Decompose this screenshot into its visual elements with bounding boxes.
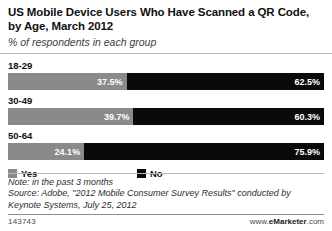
brand-suffix: .com xyxy=(307,217,324,226)
bar-segment-yes: 24.1% xyxy=(8,143,84,160)
bar-value-no: 62.5% xyxy=(294,77,320,87)
category-label: 30-49 xyxy=(8,95,324,106)
chart-source: Source: Adobe, "2012 Mobile Consumer Sur… xyxy=(8,188,324,211)
bar-segment-yes: 37.5% xyxy=(8,73,127,90)
bar-group-30-49: 30-49 39.7% 60.3% xyxy=(8,95,324,125)
bar-segment-no: 60.3% xyxy=(133,108,324,125)
brand-prefix: www. xyxy=(250,217,269,226)
bar-segment-no: 62.5% xyxy=(127,73,325,90)
stacked-bar: 37.5% 62.5% xyxy=(8,73,324,90)
emarketer-brand: www.eMarketer.com xyxy=(250,217,324,226)
category-label: 18-29 xyxy=(8,60,324,71)
bar-group-50-64: 50-64 24.1% 75.9% xyxy=(8,130,324,160)
bar-segment-no: 75.9% xyxy=(84,143,324,160)
chart-footer: Note: in the past 3 months Source: Adobe… xyxy=(0,173,332,231)
chart-id-bar: 143743 www.eMarketer.com xyxy=(8,217,324,226)
bar-value-no: 75.9% xyxy=(294,147,320,157)
chart-id: 143743 xyxy=(8,217,36,226)
emarketer-chart-card: US Mobile Device Users Who Have Scanned … xyxy=(0,0,332,230)
bar-value-yes: 39.7% xyxy=(104,112,130,122)
bar-group-18-29: 18-29 37.5% 62.5% xyxy=(8,60,324,90)
chart-subtitle: % of respondents in each group xyxy=(8,36,324,49)
bar-value-yes: 24.1% xyxy=(55,147,81,157)
stacked-bar: 24.1% 75.9% xyxy=(8,143,324,160)
category-label: 50-64 xyxy=(8,130,324,141)
bar-value-yes: 37.5% xyxy=(97,77,123,87)
chart-plot-area: 18-29 37.5% 62.5% 30-49 39.7% 60.3% xyxy=(0,60,332,160)
bar-segment-yes: 39.7% xyxy=(8,108,133,125)
chart-header: US Mobile Device Users Who Have Scanned … xyxy=(0,0,332,49)
footer-divider xyxy=(8,173,324,174)
bar-value-no: 60.3% xyxy=(294,112,320,122)
brand-name: eMarketer xyxy=(269,217,307,226)
id-divider xyxy=(8,214,324,215)
stacked-bar: 39.7% 60.3% xyxy=(8,108,324,125)
chart-note: Note: in the past 3 months xyxy=(8,177,324,189)
page-title: US Mobile Device Users Who Have Scanned … xyxy=(8,6,324,33)
header-divider xyxy=(0,53,332,54)
